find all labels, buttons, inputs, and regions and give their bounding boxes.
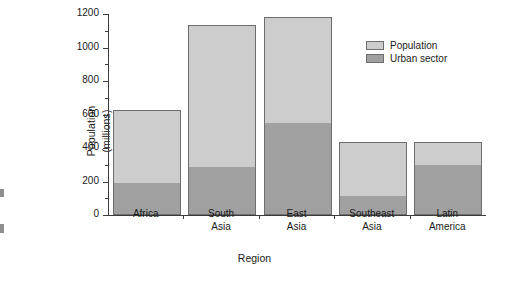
y-tick-label-0: 0: [93, 208, 99, 219]
page-margin-mark-lower: [0, 224, 4, 233]
y-tick-label-600: 600: [82, 108, 99, 119]
legend-swatch-population-icon: [366, 41, 384, 50]
y-tick-label-800: 800: [82, 74, 99, 85]
x-label-south-asia: SouthAsia: [177, 208, 264, 233]
legend-swatch-urban-sector-icon: [366, 54, 384, 63]
bar-latin-america[interactable]: [414, 142, 482, 215]
x-label-east-asia: EastAsia: [253, 208, 340, 233]
chart-figure: Population (millions) 020040060080010001…: [0, 0, 509, 282]
legend-label-population: Population: [390, 40, 437, 51]
y-tick-1000: 1000: [103, 48, 108, 49]
y-tick-label-200: 200: [82, 175, 99, 186]
y-tick-minor-900: [105, 64, 108, 65]
y-tick-minor-500: [105, 131, 108, 132]
legend-item-population: Population: [366, 39, 447, 51]
page-margin-mark-upper: [0, 189, 4, 197]
y-axis-line: [108, 14, 109, 215]
chart-legend: Population Urban sector: [366, 39, 447, 65]
y-tick-600: 600: [103, 115, 108, 116]
x-label-africa: Africa: [102, 208, 189, 221]
y-tick-200: 200: [103, 182, 108, 183]
bar-southeast-asia[interactable]: [339, 142, 407, 215]
y-tick-label-400: 400: [82, 141, 99, 152]
x-axis-title: Region: [0, 252, 509, 264]
y-tick-minor-100: [105, 198, 108, 199]
y-tick-minor-300: [105, 165, 108, 166]
legend-item-urban-sector: Urban sector: [366, 52, 447, 64]
y-tick-800: 800: [103, 81, 108, 82]
y-tick-1200: 1200: [103, 14, 108, 15]
y-tick-400: 400: [103, 148, 108, 149]
bar-africa[interactable]: [113, 110, 181, 215]
y-tick-label-1000: 1000: [77, 41, 99, 52]
y-axis-title: Population (millions): [14, 66, 60, 196]
y-tick-minor-700: [105, 98, 108, 99]
bar-east-asia[interactable]: [264, 17, 332, 215]
x-label-latin-america: LatinAmerica: [404, 208, 491, 233]
x-label-southeast-asia: SoutheastAsia: [328, 208, 415, 233]
y-tick-label-1200: 1200: [77, 7, 99, 18]
legend-label-urban-sector: Urban sector: [390, 53, 447, 64]
y-tick-minor-1100: [105, 31, 108, 32]
bar-south-asia[interactable]: [188, 25, 256, 215]
bar-segment-urban-sector: [264, 123, 332, 215]
